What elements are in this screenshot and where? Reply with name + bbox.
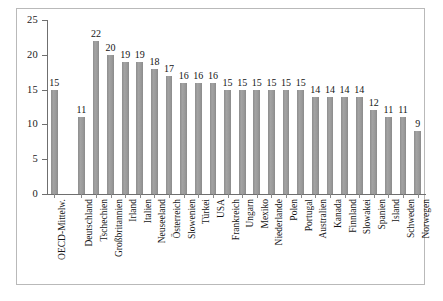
x-axis-tick	[286, 194, 287, 198]
bar-value-label: 11	[392, 105, 414, 115]
x-axis-category-label: Polen	[290, 199, 300, 221]
bar-chart-figure: 0510152025 15112220191918171616161515151…	[0, 0, 443, 301]
bar-value-label: 22	[85, 29, 107, 39]
x-axis-tick	[81, 194, 82, 198]
x-axis-tick	[301, 194, 302, 198]
bar-rect	[356, 97, 363, 194]
bar-rect	[224, 90, 231, 194]
bar	[210, 83, 217, 194]
x-axis-category-label: USA	[217, 199, 227, 218]
bar-value-label: 14	[348, 85, 370, 95]
y-axis-tick	[42, 55, 47, 56]
bar-rect	[312, 97, 319, 194]
x-axis-category-label: OECD-Mittelw.	[58, 199, 68, 260]
x-axis-tick	[140, 194, 141, 198]
bar	[414, 131, 421, 194]
x-axis-tick	[96, 194, 97, 198]
bar	[107, 55, 114, 194]
bar-rect	[78, 117, 85, 194]
x-axis-category-label: Mexiko	[261, 199, 271, 229]
y-axis-tick-label: 25	[12, 15, 38, 25]
bar-rect	[136, 62, 143, 194]
x-axis-tick	[184, 194, 185, 198]
bar	[151, 69, 158, 194]
x-axis-category-label: Großbritannien	[115, 199, 125, 257]
bar-value-label: 15	[43, 78, 65, 88]
x-axis-category-label: Frankreich	[232, 199, 242, 240]
bar	[370, 110, 377, 194]
bar	[180, 83, 187, 194]
x-axis-tick	[198, 194, 199, 198]
x-axis-line	[47, 194, 426, 195]
bar-rect	[297, 90, 304, 194]
x-axis-tick	[359, 194, 360, 198]
x-axis-category-label: Österreich	[173, 199, 183, 239]
x-axis-category-label: Italien	[144, 199, 154, 223]
bar	[195, 83, 202, 194]
x-axis-tick	[330, 194, 331, 198]
bar	[253, 90, 260, 194]
x-axis-tick	[257, 194, 258, 198]
bar-rect	[341, 97, 348, 194]
x-axis-tick	[418, 194, 419, 198]
x-axis-category-label: Norwegen	[422, 199, 432, 239]
x-axis-category-label: Island	[392, 199, 402, 222]
bar-value-label: 9	[407, 119, 429, 129]
y-axis-tick	[42, 20, 47, 21]
bar	[93, 41, 100, 194]
x-axis-tick	[169, 194, 170, 198]
bar-rect	[107, 55, 114, 194]
y-axis-tick	[42, 159, 47, 160]
bar	[327, 97, 334, 194]
y-axis-tick-label: 20	[12, 50, 38, 60]
y-axis-tick	[42, 124, 47, 125]
bar	[341, 97, 348, 194]
bar	[224, 90, 231, 194]
bar	[312, 97, 319, 194]
bar-rect	[400, 117, 407, 194]
x-axis-category-label: Neuseeland	[158, 199, 168, 243]
bar	[166, 76, 173, 194]
x-axis-category-label: Schweden	[407, 199, 417, 238]
y-axis-tick-label: 15	[12, 85, 38, 95]
bar-rect	[51, 90, 58, 194]
bar	[122, 62, 129, 194]
bar	[268, 90, 275, 194]
bar-rect	[385, 117, 392, 194]
bar-rect	[151, 69, 158, 194]
x-axis-category-label: Kanada	[334, 199, 344, 228]
bar	[385, 117, 392, 194]
x-axis-category-label: Türkei	[202, 199, 212, 224]
y-axis-tick-label: 10	[12, 119, 38, 129]
x-axis-tick	[154, 194, 155, 198]
bar-value-label: 11	[70, 105, 92, 115]
x-axis-category-label: Finnland	[349, 199, 359, 233]
x-axis-tick	[111, 194, 112, 198]
bar-rect	[180, 83, 187, 194]
bar	[239, 90, 246, 194]
bar-rect	[122, 62, 129, 194]
x-axis-tick	[388, 194, 389, 198]
bar-rect	[414, 131, 421, 194]
bar-rect	[210, 83, 217, 194]
x-axis-tick	[345, 194, 346, 198]
bar	[283, 90, 290, 194]
x-axis-tick	[54, 194, 55, 198]
bar-rect	[195, 83, 202, 194]
y-axis-tick	[42, 90, 47, 91]
bar-rect	[253, 90, 260, 194]
bar	[297, 90, 304, 194]
x-axis-category-label: Niederlande	[275, 199, 285, 245]
x-axis-category-label: Slowenien	[188, 199, 198, 239]
x-axis-category-label: Portugal	[305, 199, 315, 231]
x-axis-tick	[242, 194, 243, 198]
x-axis-category-label: Spanien	[378, 199, 388, 230]
bar	[51, 90, 58, 194]
bar-rect	[239, 90, 246, 194]
x-axis-tick	[374, 194, 375, 198]
bar-rect	[327, 97, 334, 194]
bar-rect	[370, 110, 377, 194]
bar-rect	[166, 76, 173, 194]
x-axis-tick	[213, 194, 214, 198]
x-axis-tick	[125, 194, 126, 198]
